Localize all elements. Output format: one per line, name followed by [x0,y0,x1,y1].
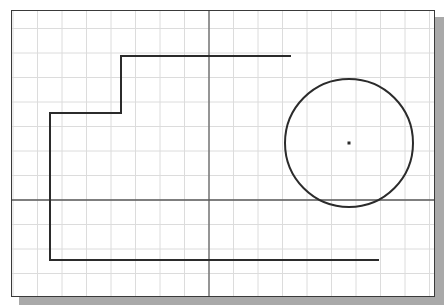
grid [12,11,434,296]
circle-center-point [348,142,351,145]
drawing-svg [0,0,447,307]
polyline-shape[interactable] [50,56,379,260]
